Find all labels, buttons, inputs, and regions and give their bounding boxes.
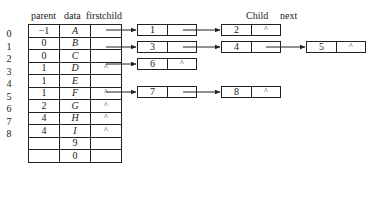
pointer-arrows xyxy=(0,0,374,203)
